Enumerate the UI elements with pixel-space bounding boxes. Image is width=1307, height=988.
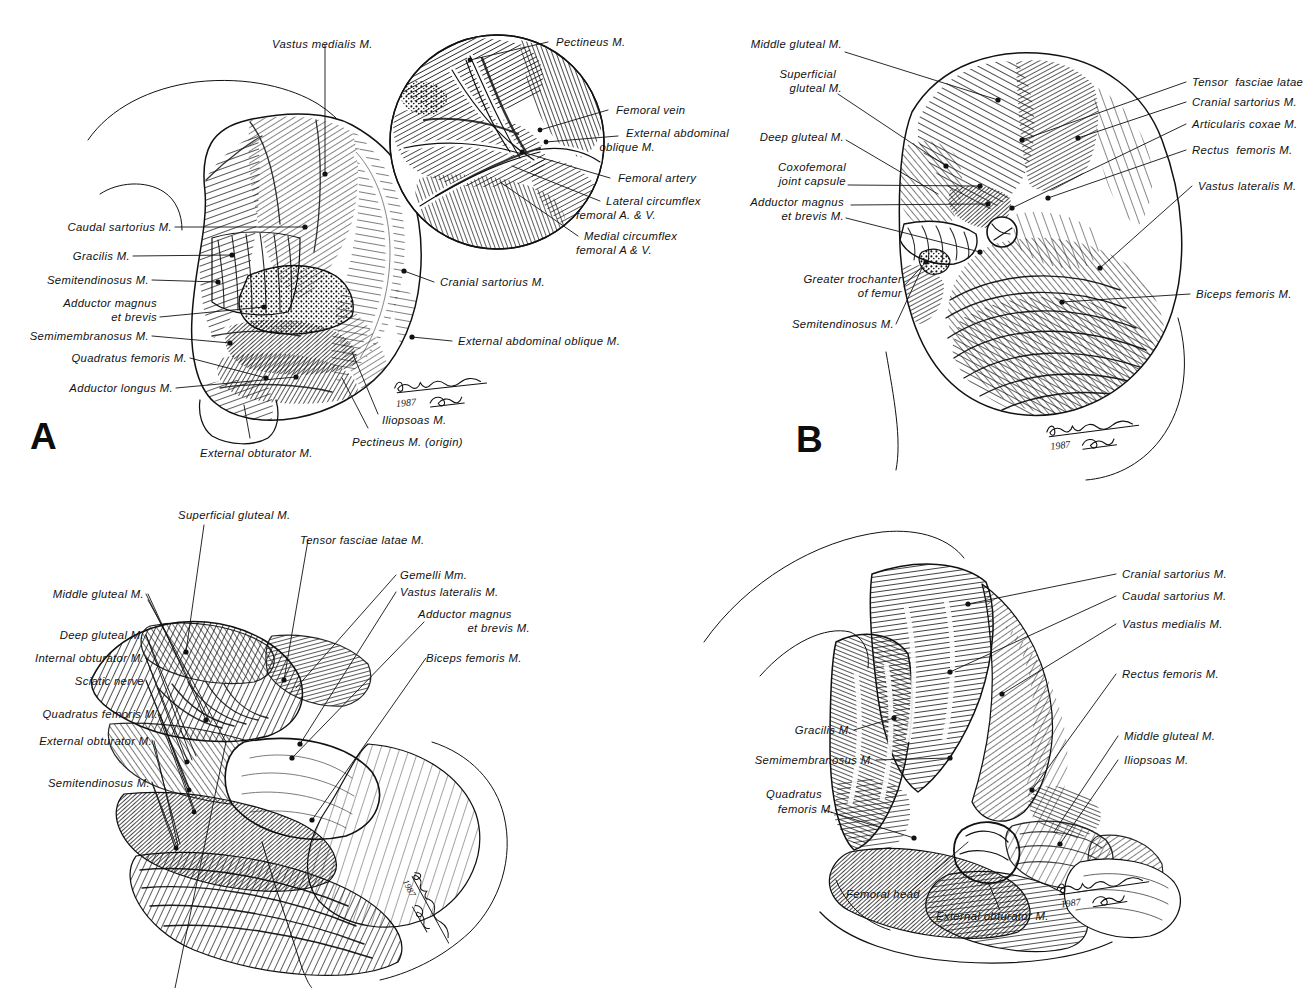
label-greater-trochanter-line1: Greater trochanter xyxy=(803,273,902,285)
label-vastus-medialis: Vastus medialis M. xyxy=(272,38,373,50)
label-semitendinosus-b: Semitendinosus M. xyxy=(792,318,894,330)
label-semitendinosus-c: Semitendinosus M. xyxy=(48,777,150,789)
label-cranial-sartorius-b: Cranial sartorius M. xyxy=(1192,96,1297,108)
panel-b-drawing: Middle gluteal M. Superficial gluteal M.… xyxy=(650,0,1307,480)
label-adductor-magnus-b-line2: et brevis M. xyxy=(781,210,844,222)
label-internal-obturator-c: Internal obturator M. xyxy=(35,652,144,664)
label-coxofemoral-line2: joint capsule xyxy=(777,175,846,187)
signature-year-b: 1987 xyxy=(1050,439,1072,452)
panel-letter-a: A xyxy=(30,418,57,455)
panel-a-signature: 1987 xyxy=(394,375,488,410)
label-sciatic-nerve: Sciatic nerve xyxy=(75,675,144,687)
label-middle-gluteal-c: Middle gluteal M. xyxy=(53,588,144,600)
label-semimembranosus-d: Semimembranosus M. xyxy=(755,754,874,766)
label-iliopsoas: Iliopsoas M. xyxy=(382,414,446,426)
label-vastus-lateralis-c: Vastus lateralis M. xyxy=(400,586,499,598)
label-femoral-head: Femoral head xyxy=(846,888,920,900)
label-deep-gluteal-c: Deep gluteal M. xyxy=(60,629,144,641)
label-adductor-magnus-line1: Adductor magnus xyxy=(62,297,157,309)
label-external-obturator-d: External obturator M. xyxy=(936,910,1049,922)
label-adductor-magnus-c-line2: et brevis M. xyxy=(467,622,530,634)
label-pectineus-origin: Pectineus M. (origin) xyxy=(352,436,463,448)
panel-letter-b: B xyxy=(796,421,823,458)
panel-c: Superficial gluteal M. Tensor fasciae la… xyxy=(0,492,660,988)
label-greater-trochanter-line2: of femur xyxy=(858,287,903,299)
label-vastus-medialis-d: Vastus medialis M. xyxy=(1122,618,1223,630)
label-superficial-gluteal-line2: gluteal M. xyxy=(790,82,842,94)
label-external-abdominal-oblique: External abdominal oblique M. xyxy=(458,335,620,347)
label-external-obturator: External obturator M. xyxy=(200,447,313,459)
label-caudal-sartorius: Caudal sartorius M. xyxy=(67,221,172,233)
panel-a-drawing: Vastus medialis M. Caudal sartorius M. G… xyxy=(0,0,660,480)
label-quadratus-femoris-d-line2: femoris M. xyxy=(778,803,834,815)
signature-year: 1987 xyxy=(396,396,418,409)
label-deep-gluteal: Deep gluteal M. xyxy=(760,131,844,143)
label-biceps-femoris-b: Biceps femoris M. xyxy=(1196,288,1292,300)
label-quadratus-femoris-c: Quadratus femoris M. xyxy=(42,708,158,720)
label-quadratus-femoris: Quadratus femoris M. xyxy=(71,352,187,364)
label-middle-gluteal: Middle gluteal M. xyxy=(751,38,842,50)
label-quadratus-femoris-d-line1: Quadratus xyxy=(766,788,822,800)
panel-d-drawing: Cranial sartorius M. Caudal sartorius M.… xyxy=(650,492,1307,988)
label-adductor-magnus-c-line1: Adductor magnus xyxy=(417,608,512,620)
label-coxofemoral-line1: Coxofemoral xyxy=(778,161,846,173)
label-gracilis-d: Gracilis M. xyxy=(795,724,852,736)
label-iliopsoas-d: Iliopsoas M. xyxy=(1124,754,1188,766)
label-cranial-sartorius-d: Cranial sartorius M. xyxy=(1122,568,1227,580)
panel-b: Middle gluteal M. Superficial gluteal M.… xyxy=(650,0,1307,480)
label-rectus-femoris-b: Rectus femoris M. xyxy=(1192,144,1292,156)
label-semimembranosus: Semimembranosus M. xyxy=(30,330,149,342)
label-adductor-magnus-line2: et brevis xyxy=(111,311,157,323)
label-articularis-coxae: Articularis coxae M. xyxy=(1191,118,1298,130)
panel-b-signature: 1987 xyxy=(1046,417,1140,453)
panel-c-drawing: Superficial gluteal M. Tensor fasciae la… xyxy=(0,492,660,988)
label-middle-gluteal-d: Middle gluteal M. xyxy=(1124,730,1215,742)
label-cranial-sartorius: Cranial sartorius M. xyxy=(440,276,545,288)
label-biceps-femoris-c: Biceps femoris M. xyxy=(426,652,522,664)
panel-d: Cranial sartorius M. Caudal sartorius M.… xyxy=(650,492,1307,988)
label-tensor-fasciae-latae-b: Tensor fasciae latae M. xyxy=(1192,76,1307,88)
panel-a-inset xyxy=(390,35,604,250)
label-external-obturator-c: External obturator M. xyxy=(39,735,152,747)
label-superficial-gluteal-line1: Superficial xyxy=(779,68,836,80)
label-vastus-lateralis-b: Vastus lateralis M. xyxy=(1198,180,1297,192)
label-rectus-femoris-d: Rectus femoris M. xyxy=(1122,668,1219,680)
label-inset-pectineus: Pectineus M. xyxy=(556,36,626,48)
label-adductor-magnus-b-line1: Adductor magnus xyxy=(749,196,844,208)
label-semitendinosus: Semitendinosus M. xyxy=(47,274,149,286)
label-inset-med-circumflex-line2: femoral A & V. xyxy=(576,244,652,256)
label-tensor-fasciae-latae-c: Tensor fasciae latae M. xyxy=(300,534,424,546)
anatomy-plate: Vastus medialis M. Caudal sartorius M. G… xyxy=(0,0,1307,988)
label-caudal-sartorius-d: Caudal sartorius M. xyxy=(1122,590,1227,602)
panel-a: Vastus medialis M. Caudal sartorius M. G… xyxy=(0,0,660,480)
label-adductor-longus: Adductor longus M. xyxy=(68,382,173,394)
label-gemelli: Gemelli Mm. xyxy=(400,569,467,581)
label-inset-lat-circumflex-line2: femoral A. & V. xyxy=(576,209,656,221)
label-gracilis: Gracilis M. xyxy=(73,250,130,262)
label-inset-ext-abd-oblique-line2: oblique M. xyxy=(599,141,655,153)
label-superficial-gluteal-c: Superficial gluteal M. xyxy=(178,509,291,521)
